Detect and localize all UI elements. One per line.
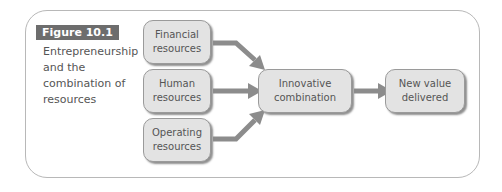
arrow-operating-to-combination: [213, 120, 255, 139]
innovative-combination-label: Innovative combination: [259, 77, 351, 105]
new-value-delivered-label: New value delivered: [386, 77, 464, 105]
financial-resources-box: Financial resources: [143, 20, 211, 64]
operating-resources-label: Operating resources: [144, 126, 210, 154]
human-resources-box: Human resources: [143, 69, 211, 113]
operating-resources-box: Operating resources: [143, 118, 211, 162]
human-resources-label: Human resources: [144, 77, 210, 105]
arrow-financial-to-combination: [213, 43, 255, 60]
innovative-combination-box: Innovative combination: [258, 69, 352, 113]
new-value-delivered-box: New value delivered: [385, 69, 465, 113]
financial-resources-label: Financial resources: [144, 28, 210, 56]
